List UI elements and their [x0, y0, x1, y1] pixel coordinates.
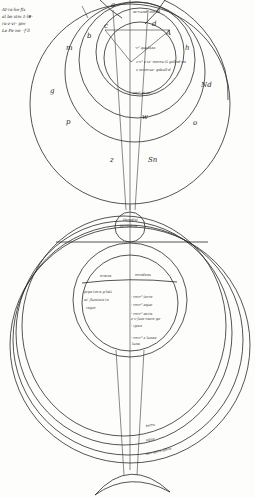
cone-line-left [113, 10, 126, 210]
left-text-3: regio [86, 306, 96, 310]
crescent-moon [95, 474, 170, 495]
marginal-note: AI·ra·ho·fix al bo vim 1·l#· ra·z·vr· pm… [1, 7, 33, 33]
terrestris-label: terrestris [120, 224, 137, 228]
marginal-line-1: AI·ra·ho·fix [1, 7, 26, 12]
diagram-canvas: c b m g p a a d A h Nd o w z Sn se·cund·… [0, 0, 255, 498]
letter-b: b [87, 32, 92, 40]
tick-label-4: z·v·fum·ciare gs· [130, 317, 161, 321]
tick-label-6: · corr⁹ z lunae [131, 336, 157, 340]
marginal-line-2: al bo vim 1·l#· [2, 14, 33, 19]
letter-p: p [66, 118, 71, 126]
letter-o: o [193, 119, 197, 127]
sphere-ring-1 [96, 8, 184, 96]
manuscript-page: c b m g p a a d A h Nd o w z Sn se·cund·… [0, 0, 255, 498]
gloss-5: cor⁹ pt·se· [133, 91, 151, 95]
letter-z: z [109, 156, 114, 164]
tick-label-1: · corr⁹ terre [131, 295, 153, 299]
letter-nd: Nd [200, 81, 212, 89]
gloss-3: v·c⁹ x·tz· morcu·lt gsllnd·mt [136, 60, 187, 64]
marginal-line-4: Le Fe no· ·f·ll [1, 28, 31, 33]
letter-a-top: a [111, 1, 115, 9]
left-text-1: prps·tm·a g·lati [84, 290, 112, 294]
cone-line-right [135, 10, 148, 210]
oriens-label: oriens [100, 274, 111, 278]
gloss-4: z mrtoruz· gsbull·d [135, 68, 171, 72]
letter-a: a [156, 7, 160, 15]
lower-diagram: Paradisi terrestris oriens occidens prps… [10, 205, 250, 495]
band-label-aer: aer·ignis·sfera [145, 447, 171, 456]
letter-w: w [142, 113, 148, 121]
lower-cone-left [116, 350, 124, 475]
band-label-aqua: aqua [146, 437, 155, 442]
left-text-2: ai· fluminis·in [84, 298, 109, 302]
letter-m: m [66, 44, 73, 52]
letter-d: d [152, 20, 157, 28]
lower-cone-right [137, 350, 144, 475]
letter-h: A [165, 29, 171, 37]
letter-c: c [104, 22, 108, 30]
earth-equator [82, 280, 177, 283]
gloss-1: se·cund· mo· [133, 10, 156, 14]
letter-g: g [50, 87, 55, 95]
letter-n: h [185, 44, 190, 52]
marginal-line-3: ra·z·vr· pm· [2, 21, 26, 26]
tick-label-5: · ignis [131, 324, 142, 328]
band-label-terra: terra [146, 423, 156, 428]
tick-label-7: luna [132, 342, 140, 346]
tick-label-2: · corr⁹ aque [131, 303, 152, 307]
upper-diagram: c b m g p a a d A h Nd o w z Sn se·cund·… [30, 0, 230, 210]
sphere-ring-3 [65, 2, 205, 142]
outer-ring-2 [16, 221, 232, 445]
gloss-2: ·c⁹ qualitas [135, 46, 155, 50]
tick-label-3: · corr⁹ aeris [131, 312, 153, 316]
triangle-left [105, 30, 131, 62]
letter-sn: Sn [148, 156, 158, 164]
occidens-label: occidens [135, 273, 151, 277]
